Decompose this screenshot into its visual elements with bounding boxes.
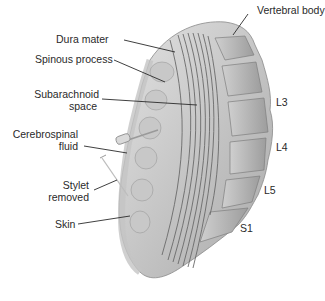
label-cerebrospinal-fluid-line1: Cerebrospinal	[12, 128, 78, 140]
label-s1: S1	[240, 222, 253, 234]
label-vertebral-body: Vertebral body	[257, 4, 325, 16]
label-stylet-removed-line2: removed	[40, 191, 89, 203]
label-spinous-process: Spinous process	[35, 53, 113, 65]
label-subarachnoid-space-line1: Subarachnoid	[33, 88, 99, 100]
label-cerebrospinal-fluid-line2: fluid	[12, 140, 78, 152]
label-l4: L4	[276, 141, 288, 153]
label-l5: L5	[264, 184, 276, 196]
label-dura-mater: Dura mater	[56, 33, 109, 45]
label-skin: Skin	[55, 218, 75, 230]
label-subarachnoid-space-line2: space	[33, 100, 97, 112]
label-l3: L3	[276, 96, 288, 108]
label-stylet-removed-line1: Stylet	[40, 179, 89, 191]
